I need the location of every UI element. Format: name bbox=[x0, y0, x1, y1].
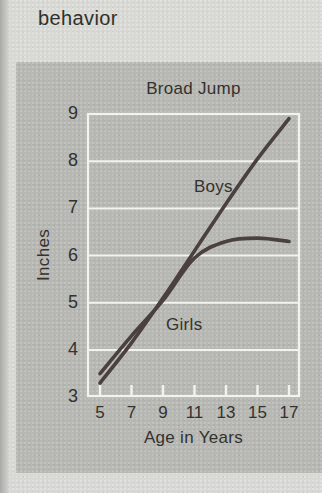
x-tick-label-9: 9 bbox=[158, 403, 167, 423]
y-tick-label-7: 7 bbox=[68, 197, 78, 218]
x-axis-tick-labels: 57911131517 bbox=[0, 403, 322, 425]
series-label-girls: Girls bbox=[166, 315, 202, 335]
x-tick-label-13: 13 bbox=[217, 403, 236, 423]
x-tick-label-15: 15 bbox=[248, 403, 267, 423]
textbook-page: behavior Broad Jump Inches 9876543 Boys … bbox=[0, 0, 322, 493]
y-tick-label-4: 4 bbox=[68, 339, 78, 360]
plot-area: Boys Girls bbox=[87, 113, 300, 397]
x-axis-title: Age in Years bbox=[87, 428, 300, 448]
chart-title: Broad Jump bbox=[87, 79, 300, 99]
y-tick-label-8: 8 bbox=[68, 150, 78, 171]
x-tick-label-5: 5 bbox=[95, 403, 104, 423]
x-tick-label-17: 17 bbox=[280, 403, 299, 423]
y-tick-label-9: 9 bbox=[68, 103, 78, 124]
plot-canvas bbox=[87, 113, 300, 397]
curve-girls bbox=[100, 238, 289, 373]
x-tick-label-11: 11 bbox=[186, 403, 204, 423]
x-tick-label-7: 7 bbox=[127, 403, 136, 423]
series-label-boys: Boys bbox=[194, 177, 233, 197]
curve-boys bbox=[100, 119, 289, 383]
y-tick-label-6: 6 bbox=[68, 245, 78, 266]
y-tick-label-5: 5 bbox=[68, 292, 78, 313]
